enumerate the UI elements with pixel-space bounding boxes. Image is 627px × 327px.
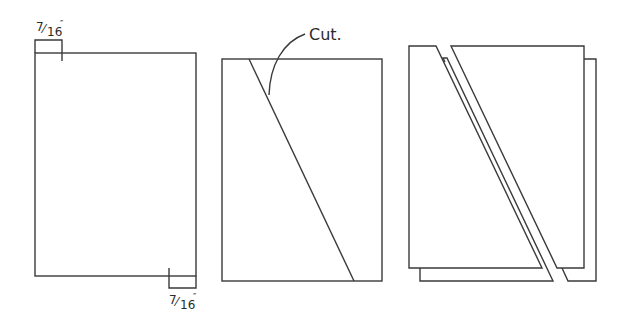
sheet-rectangle <box>35 53 196 276</box>
top-dimension-label: 7 ⁄ 16 ″ <box>36 19 64 39</box>
diagonal-cut-line <box>249 59 354 281</box>
panel-3-separated-pieces <box>409 46 596 281</box>
cut-callout-label: Cut. <box>309 25 342 44</box>
svg-text:″: ″ <box>193 292 197 302</box>
svg-text:″: ″ <box>60 19 64 29</box>
callout-leader <box>269 34 305 95</box>
top-offset-bracket <box>35 40 62 61</box>
bottom-dimension-label: 7 ⁄ 16 ″ <box>169 292 197 312</box>
cutting-diagram: 7 ⁄ 16 ″ 7 ⁄ 16 ″ Cut. <box>0 0 627 327</box>
panel-1-rectangle-with-offsets: 7 ⁄ 16 ″ 7 ⁄ 16 ″ <box>35 19 197 312</box>
bottom-offset-bracket <box>169 268 196 288</box>
panel-2-cut-line: Cut. <box>222 25 382 281</box>
